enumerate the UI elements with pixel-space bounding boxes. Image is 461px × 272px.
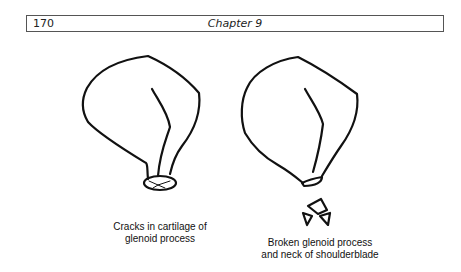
shoulderblade-right-illustration: [242, 57, 358, 225]
shoulderblade-left-illustration: [83, 56, 199, 190]
caption-right-line2: and neck of shoulderblade: [235, 249, 405, 261]
caption-right: Broken glenoid process and neck of shoul…: [235, 237, 405, 261]
caption-left-line2: glenoid process: [80, 233, 240, 245]
caption-left-line1: Cracks in cartilage of: [80, 221, 240, 233]
caption-left: Cracks in cartilage of glenoid process: [80, 221, 240, 245]
caption-right-line1: Broken glenoid process: [235, 237, 405, 249]
